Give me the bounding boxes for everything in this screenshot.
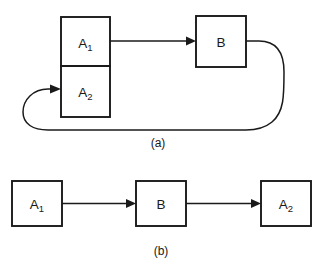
panel-b: A1 B A2: [12, 181, 311, 258]
block-a2: A2: [61, 66, 110, 117]
block-a1: A1: [61, 17, 110, 66]
block-b-label-base: B: [216, 34, 225, 49]
panel-a-caption: (a): [151, 136, 166, 150]
block-b-open-label: B: [156, 197, 165, 212]
block-b-open-label-base: B: [156, 197, 165, 212]
block-a2-label-base: A: [78, 84, 87, 99]
connector-b-to-a2-open-arrowhead: [251, 199, 261, 208]
block-a1-open-label-subscript: 1: [39, 203, 44, 214]
block-a1-label-base: A: [78, 35, 87, 50]
connector-a1-to-b-open: [62, 199, 136, 208]
panel-b-caption: (b): [154, 244, 169, 258]
connector-a1-to-b: [110, 37, 196, 46]
block-a1-open-label-base: A: [30, 197, 39, 212]
block-a2-open-label-base: A: [279, 197, 288, 212]
block-a2-open-label-subscript: 2: [288, 203, 293, 214]
feedback-loop-arrowhead: [50, 84, 61, 93]
block-a1-open: A1: [12, 181, 62, 226]
block-a1-label-subscript: 1: [87, 41, 92, 52]
block-a2-label-subscript: 2: [87, 90, 92, 101]
connector-a1-to-b-open-arrowhead: [126, 199, 136, 208]
connector-b-to-a2-open: [186, 199, 261, 208]
diagram-canvas: A1 A2 B: [0, 0, 322, 272]
panel-a: A1 A2 B: [23, 16, 284, 150]
block-b: B: [196, 16, 246, 67]
block-b-open: B: [136, 181, 186, 226]
connector-a1-to-b-arrowhead: [186, 37, 196, 46]
block-a2-open: A2: [261, 181, 311, 226]
block-b-label: B: [216, 34, 225, 49]
figure-root: A1 A2 B: [0, 0, 322, 272]
